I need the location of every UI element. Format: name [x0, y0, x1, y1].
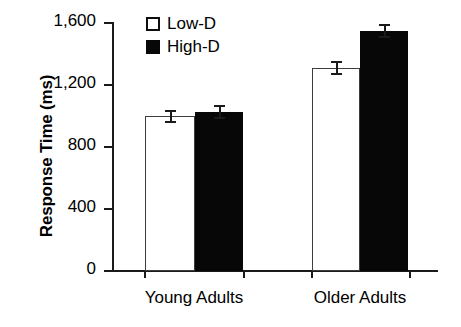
error-bar-older-adults-high-d	[379, 24, 390, 38]
bar-young-adults-low-d[interactable]	[145, 116, 195, 271]
y-tick-label-0: 0	[30, 259, 96, 279]
bar-older-adults-low-d[interactable]	[312, 68, 360, 271]
error-bar-cap-bottom	[331, 73, 342, 75]
x-category-label-older-adults: Older Adults	[295, 288, 425, 308]
error-bar-cap-bottom	[379, 36, 390, 38]
x-tick-mark-older-end	[409, 271, 411, 278]
x-tick-mark-young-end	[243, 271, 245, 278]
error-bar-cap-bottom	[165, 121, 176, 123]
legend-label-high-d: High-D	[167, 37, 220, 57]
error-bar-cap-top	[379, 24, 390, 26]
y-tick-mark-800	[104, 146, 113, 148]
bar-young-adults-high-d[interactable]	[195, 112, 243, 271]
black-square-icon	[146, 40, 160, 54]
y-tick-mark-1600	[104, 22, 113, 24]
y-tick-label-1200: 1,200	[30, 73, 96, 93]
y-tick-mark-1200	[104, 84, 113, 86]
chart-legend: Low-D High-D	[146, 12, 220, 58]
y-tick-label-800: 800	[30, 135, 96, 155]
x-tick-mark-older-start	[311, 271, 313, 278]
error-bar-cap-top	[165, 110, 176, 112]
bar-older-adults-high-d[interactable]	[360, 31, 408, 271]
legend-item-high-d[interactable]: High-D	[146, 35, 220, 58]
x-category-label-young-adults: Young Adults	[129, 288, 259, 308]
y-tick-label-1600: 1,600	[30, 11, 96, 31]
error-bar-cap-top	[214, 105, 225, 107]
y-tick-label-400: 400	[30, 197, 96, 217]
legend-item-low-d[interactable]: Low-D	[146, 12, 220, 35]
error-bar-cap-top	[331, 61, 342, 63]
bar-chart-figure: Response Time (ms) 1,600 1,200 800 400 0	[0, 0, 461, 327]
error-bar-cap-bottom	[214, 117, 225, 119]
error-bar-older-adults-low-d	[331, 61, 342, 75]
y-tick-mark-400	[104, 208, 113, 210]
legend-label-low-d: Low-D	[167, 14, 216, 34]
y-tick-mark-0	[104, 270, 113, 272]
x-tick-mark-young-start	[144, 271, 146, 278]
error-bar-young-adults-low-d	[165, 110, 176, 123]
white-square-icon	[146, 17, 160, 31]
error-bar-young-adults-high-d	[214, 105, 225, 119]
